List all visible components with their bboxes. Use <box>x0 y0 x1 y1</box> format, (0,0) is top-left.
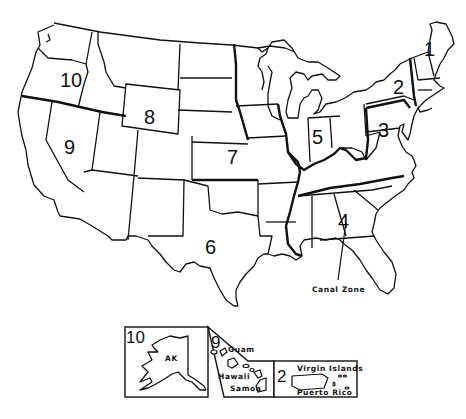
mo-ar-line <box>258 182 298 184</box>
vt-nh-line <box>414 58 418 80</box>
mn-ia-line <box>236 104 278 106</box>
ut-co-line <box>134 130 138 176</box>
wisconsin-outline <box>258 48 268 90</box>
southeast-coast <box>336 194 398 294</box>
region-8-east-boundary <box>234 44 248 140</box>
id-mt-line <box>98 32 126 88</box>
region-4-5-boundary <box>288 148 346 170</box>
us-regions-map: 1 2 3 4 5 6 7 8 9 10 Canal Zone 10 AK 9 … <box>0 0 466 419</box>
ga-fl-line <box>320 236 374 240</box>
inset-caribbean: 2 Virgin Islands Puerto Rico <box>274 361 363 397</box>
ok-tx-line <box>258 180 272 254</box>
pacific-region-label: 9 <box>211 333 220 352</box>
gulf-coast <box>148 238 336 306</box>
tn-line <box>298 186 392 196</box>
puget-sound <box>46 34 50 42</box>
virgin-island-2 <box>344 375 347 377</box>
region-3-4-boundary <box>298 176 404 196</box>
virgin-island-1 <box>339 375 342 377</box>
canal-zone-label: Canal Zone <box>312 285 365 294</box>
ma-line <box>418 78 440 80</box>
caribbean-region-label: 2 <box>277 367 286 386</box>
region-2-3-boundary <box>366 100 410 108</box>
az-nm-line <box>128 176 134 240</box>
northern-border <box>54 23 295 52</box>
samoa-label: Samoa <box>230 384 262 393</box>
region-label-10: 10 <box>60 69 82 91</box>
mt-sd-line <box>178 44 180 90</box>
region-label-2: 2 <box>393 76 404 98</box>
ok-panhandle <box>184 180 258 216</box>
mexico-border <box>80 219 148 240</box>
region-label-8: 8 <box>144 106 155 128</box>
hawaii-island-3 <box>250 369 254 372</box>
region-label-7: 7 <box>227 146 238 168</box>
virgin-islands-label: Virgin Islands <box>297 364 363 373</box>
region-label-9: 9 <box>64 136 75 158</box>
inset-pacific: 9 Guam Hawaii Samoa <box>208 327 274 397</box>
puerto-rico-label: Puerto Rico <box>297 388 353 397</box>
region-label-5: 5 <box>312 126 323 148</box>
region-label-1: 1 <box>424 38 435 60</box>
virgin-island-3 <box>333 382 335 386</box>
mid-atlantic-coast <box>398 108 418 194</box>
inset-alaska: 10 AK <box>125 327 208 397</box>
mississippi-river <box>286 182 302 256</box>
region-label-6: 6 <box>205 236 216 258</box>
guam-island-1 <box>211 350 217 354</box>
wa-or-line <box>38 48 86 64</box>
ne-ks-line <box>192 142 248 144</box>
region-labels: 1 2 3 4 5 6 7 8 9 10 <box>60 38 435 258</box>
mi-oh-line <box>308 116 340 118</box>
nv-az-line <box>84 170 138 176</box>
nv-ut-line <box>92 112 100 170</box>
alaska-state-label: AK <box>165 354 178 363</box>
region-9-10-boundary <box>22 96 126 116</box>
ia-mo-line <box>248 136 286 138</box>
il-in-line <box>308 118 310 162</box>
region-label-4: 4 <box>338 210 349 232</box>
wa-id-line <box>86 32 92 64</box>
hawaii-island-2 <box>243 365 249 368</box>
nm-tx-line <box>138 178 184 236</box>
guam-label: Guam <box>228 345 255 354</box>
alaska-region-label: 10 <box>126 328 145 347</box>
ga-sc-line <box>354 190 378 210</box>
hawaii-label: Hawaii <box>218 372 250 381</box>
in-oh-line <box>330 118 332 148</box>
sd-ne-line <box>178 110 232 112</box>
region-label-3: 3 <box>378 119 389 141</box>
new-england-outline <box>395 22 454 112</box>
region-7-east-boundary <box>278 104 300 182</box>
